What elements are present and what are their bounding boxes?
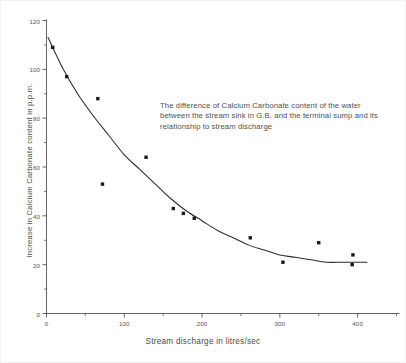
data-point-marker: [172, 207, 175, 210]
data-point-marker: [144, 156, 147, 159]
data-point-marker: [51, 46, 54, 49]
x-tick-label: 400: [352, 320, 363, 327]
y-tick-label: 100: [12, 66, 40, 73]
plot-area: [0, 0, 406, 363]
data-point-marker: [193, 217, 196, 220]
x-tick-label: 0: [45, 320, 49, 327]
y-axis-label: Increase in Calcium Carbonate content in…: [25, 46, 34, 296]
data-point-marker: [317, 241, 320, 244]
y-tick-label: 0: [12, 310, 40, 317]
y-tick-label: 120: [12, 17, 40, 24]
data-point-marker: [249, 236, 252, 239]
data-point-marker: [350, 263, 353, 266]
chart-figure: Increase in Calcium Carbonate content in…: [0, 0, 406, 363]
data-point-marker: [96, 97, 99, 100]
x-tick-label: 200: [197, 320, 208, 327]
fitted-curve: [48, 38, 367, 263]
y-tick-label: 80: [12, 115, 40, 122]
x-tick-label: 300: [275, 320, 286, 327]
data-point-marker: [182, 212, 185, 215]
x-tick-label: 100: [119, 320, 130, 327]
data-point-marker: [101, 182, 104, 185]
data-point-marker: [351, 253, 354, 256]
y-tick-label: 60: [12, 164, 40, 171]
data-point-marker: [65, 75, 68, 78]
chart-annotation: The difference of Calcium Carbonate cont…: [160, 101, 392, 132]
y-tick-label: 20: [12, 261, 40, 268]
data-point-marker: [281, 261, 284, 264]
x-axis-label: Stream discharge in litres/sec: [0, 337, 406, 346]
data-series: [51, 46, 355, 267]
y-tick-label: 40: [12, 212, 40, 219]
